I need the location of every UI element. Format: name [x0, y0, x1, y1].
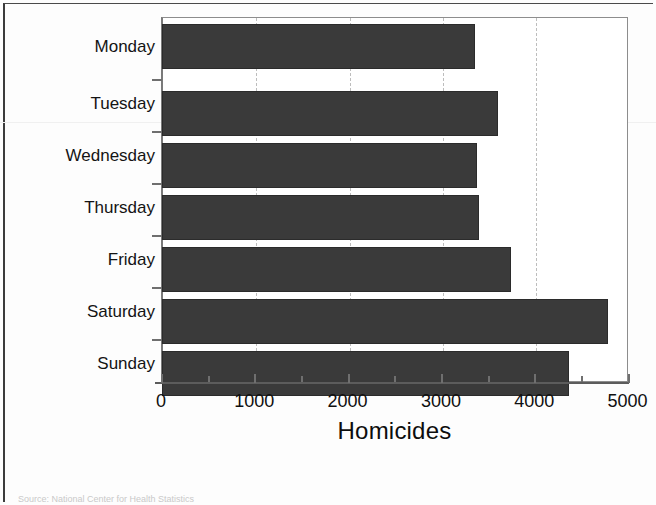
- bar-saturday: [162, 299, 608, 344]
- bar-wednesday: [162, 143, 477, 188]
- x-axis-ticks: [161, 374, 635, 383]
- bars-layer: [161, 17, 628, 382]
- x-tick-500: [208, 376, 210, 382]
- y-axis-label-sunday: Sunday: [97, 355, 155, 373]
- x-tick-label-3000: 3000: [421, 391, 461, 412]
- x-tick-label-2000: 2000: [328, 391, 368, 412]
- x-tick-3000: [441, 374, 443, 383]
- y-axis-label-tuesday: Tuesday: [90, 95, 155, 113]
- x-tick-label-0: 0: [156, 391, 166, 412]
- x-tick-5000: [628, 374, 630, 383]
- bar-tuesday: [162, 91, 498, 136]
- x-tick-4000: [534, 374, 536, 383]
- x-axis-tick-labels: 0 1000 2000 3000 4000 5000: [0, 391, 656, 415]
- x-tick-label-1000: 1000: [234, 391, 274, 412]
- bar-friday: [162, 247, 511, 292]
- x-tick-2500: [394, 376, 396, 382]
- x-tick-3500: [488, 376, 490, 382]
- x-tick-1500: [301, 376, 303, 382]
- horizontal-bar-chart: Monday Tuesday Wednesday Thursday Friday…: [0, 0, 656, 505]
- bar-monday: [162, 24, 475, 69]
- y-axis-label-friday: Friday: [108, 251, 155, 269]
- x-tick-label-5000: 5000: [608, 391, 648, 412]
- source-caption: Source: National Center for Health Stati…: [18, 494, 638, 505]
- x-tick-4500: [581, 376, 583, 382]
- bar-thursday: [162, 195, 479, 240]
- y-axis-label-saturday: Saturday: [87, 303, 155, 321]
- y-axis-label-monday: Monday: [95, 38, 155, 56]
- x-tick-2000: [348, 374, 350, 383]
- y-axis-label-thursday: Thursday: [84, 199, 155, 217]
- figure-page: Monday Tuesday Wednesday Thursday Friday…: [0, 0, 656, 505]
- x-axis-title: Homicides: [161, 417, 628, 445]
- x-tick-1000: [254, 374, 256, 383]
- y-axis-labels: Monday Tuesday Wednesday Thursday Friday…: [0, 17, 155, 382]
- x-tick-label-4000: 4000: [514, 391, 554, 412]
- y-axis-label-wednesday: Wednesday: [66, 147, 155, 165]
- x-tick-0: [161, 374, 163, 383]
